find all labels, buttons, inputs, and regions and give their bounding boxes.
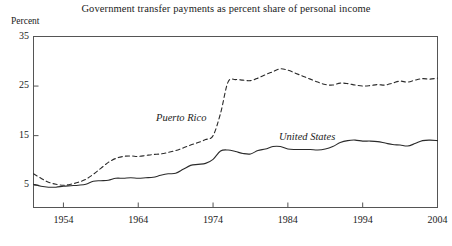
series-line-united-states (34, 140, 438, 187)
series-label-puerto-rico: Puerto Rico (156, 112, 206, 123)
axis-frame (34, 37, 438, 208)
x-tick-label: 1954 (53, 214, 73, 225)
y-axis-tick-marks (34, 37, 39, 186)
chart-figure: Government transfer payments as percent … (0, 0, 452, 246)
x-axis-tick-marks (63, 203, 437, 208)
plot-area (0, 0, 452, 246)
x-tick-label: 1984 (278, 214, 298, 225)
x-tick-label: 1994 (353, 214, 373, 225)
x-tick-label: 1974 (203, 214, 223, 225)
x-tick-label: 2004 (428, 214, 448, 225)
series-line-puerto-rico (34, 69, 438, 186)
data-series-group (34, 69, 438, 188)
series-label-united-states: United States (279, 131, 335, 142)
x-tick-label: 1964 (128, 214, 148, 225)
